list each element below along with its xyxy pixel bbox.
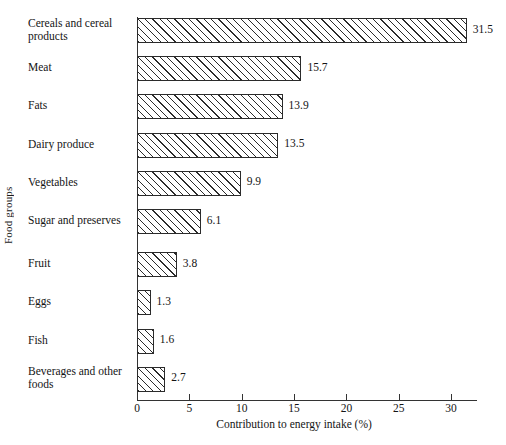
category-label-line: foods [28,378,132,391]
category-label: Eggs [28,295,132,308]
x-axis-tick-label: 20 [331,402,361,414]
bar-value-label: 13.9 [289,99,309,111]
y-axis-title: Food groups [2,160,18,270]
x-axis-tick-label: 25 [384,402,414,414]
x-axis-line [137,400,477,401]
category-label-line: Cereals and cereal [28,17,132,30]
category-label-line: Fruit [28,257,132,270]
bar [137,252,177,277]
category-label: Meat [28,61,132,74]
category-label-line: Sugar and preserves [28,214,132,227]
x-axis-tick [137,394,138,400]
x-axis-tick [346,394,347,400]
category-label: Fats [28,99,132,112]
bar-chart: Food groups Cereals and cerealproductsMe… [0,0,506,445]
x-axis-title: Contribution to energy intake (%) [137,418,451,430]
bar [137,56,301,81]
x-axis-tick-label: 0 [122,402,152,414]
bar [137,171,241,196]
bar [137,290,151,315]
bar-value-label: 15.7 [307,61,327,73]
bar-value-label: 6.1 [207,214,221,226]
bar-value-label: 13.5 [284,137,304,149]
category-label: Sugar and preserves [28,214,132,227]
category-label-line: Beverages and other [28,365,132,378]
bar-value-label: 3.8 [183,257,197,269]
x-axis-tick-label: 15 [279,402,309,414]
x-axis-tick [242,394,243,400]
bar [137,94,283,119]
x-axis-tick [399,394,400,400]
category-label-line: Vegetables [28,176,132,189]
category-label-line: Eggs [28,295,132,308]
bar-value-label: 31.5 [473,23,493,35]
category-label-line: products [28,30,132,43]
bar [137,18,467,43]
plot-area: 31.515.713.913.59.96.13.81.31.62.7 05101… [137,0,506,445]
x-axis-tick [294,394,295,400]
bar-value-label: 1.3 [157,295,171,307]
category-label-line: Fish [28,334,132,347]
x-axis-tick [451,394,452,400]
category-label-line: Dairy produce [28,138,132,151]
bar-value-label: 9.9 [247,175,261,187]
x-axis-tick-label: 5 [174,402,204,414]
bar-value-label: 1.6 [160,333,174,345]
bar [137,133,278,158]
bar [137,367,165,392]
bar [137,209,201,234]
category-label: Dairy produce [28,138,132,151]
category-label: Cereals and cerealproducts [28,17,132,43]
x-axis-tick-label: 30 [436,402,466,414]
category-label-line: Fats [28,99,132,112]
bar-value-label: 2.7 [171,371,185,383]
category-label: Beverages and otherfoods [28,365,132,391]
category-label-line: Meat [28,61,132,74]
category-label: Fish [28,334,132,347]
category-label: Vegetables [28,176,132,189]
bar [137,329,154,354]
x-axis-tick [189,394,190,400]
x-axis-tick-label: 10 [227,402,257,414]
category-label: Fruit [28,257,132,270]
